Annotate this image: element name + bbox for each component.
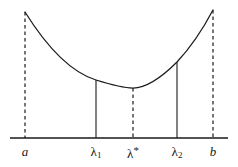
lambda2-subscript: 2 [178, 150, 183, 160]
axis-label-b-text: b [210, 144, 217, 159]
lambda-glyph: λ [171, 144, 177, 159]
lambda-star-asterisk: * [134, 144, 140, 156]
diagram-canvas [0, 0, 238, 167]
axis-label-a-text: a [22, 144, 29, 159]
axis-label-a: a [22, 145, 29, 158]
objective-function-curve [25, 10, 213, 88]
function-diagram: a λ1 λ* λ2 b [0, 0, 238, 167]
axis-label-lambda-star: λ* [127, 145, 139, 160]
lambda-glyph: λ [127, 146, 133, 161]
lambda-glyph: λ [90, 144, 96, 159]
axis-label-lambda2: λ2 [171, 145, 182, 160]
axis-label-lambda1: λ1 [90, 145, 101, 160]
axis-label-b: b [210, 145, 217, 158]
lambda1-subscript: 1 [97, 150, 102, 160]
